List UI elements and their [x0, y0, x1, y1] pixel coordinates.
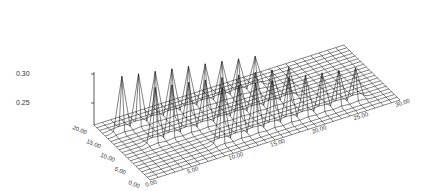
x-tick-label: 25.00 — [353, 111, 370, 122]
mesh-line-y — [294, 61, 350, 116]
x-tick-label: 20.00 — [311, 124, 328, 135]
y-tick-label: 5.00 — [114, 166, 128, 176]
y-tick-label: 20.00 — [72, 124, 89, 135]
mesh-line-x — [102, 53, 352, 133]
surface-plot: 0.30 0.25 20.0015.0010.005.000.00 0.005.… — [0, 0, 423, 191]
x-tick-label: 10.00 — [228, 151, 245, 162]
z-axis: 0.30 0.25 — [16, 70, 94, 125]
mesh-line-y — [111, 76, 167, 174]
x-tick-label: 15.00 — [269, 137, 286, 148]
y-tick-label: 10.00 — [100, 152, 117, 163]
mesh-line-y — [327, 50, 383, 105]
x-tick-label: 30.00 — [394, 97, 411, 108]
y-tick-label: 0.00 — [128, 179, 142, 189]
y-tick-label: 15.00 — [86, 138, 103, 149]
mesh-line-y — [344, 45, 400, 100]
x-tick-label: 0.00 — [144, 178, 158, 188]
x-axis-labels: 0.005.0010.0015.0020.0025.0030.00 — [144, 97, 411, 188]
z-tick-label: 0.30 — [16, 70, 30, 77]
mesh-line-y — [311, 56, 367, 111]
z-tick-label: 0.25 — [16, 99, 30, 106]
x-tick-label: 5.00 — [186, 165, 200, 175]
mesh-line-x — [105, 56, 355, 136]
wireframe-mesh — [94, 45, 400, 180]
